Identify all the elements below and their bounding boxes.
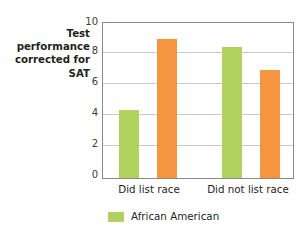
bar-did-not-list-race-series-2 bbox=[260, 70, 280, 179]
legend-item-african-american: African American bbox=[108, 211, 219, 222]
y-axis-tick-labels: 10 8 6 4 2 0 bbox=[70, 0, 98, 227]
x-axis-label-did-list-race: Did list race bbox=[106, 183, 192, 195]
bar-did-list-race-series-2 bbox=[157, 39, 177, 179]
gridline-8 bbox=[103, 52, 293, 53]
y-tick-label-6: 6 bbox=[72, 77, 98, 87]
plot-area bbox=[102, 22, 294, 179]
legend-label: African American bbox=[131, 211, 219, 222]
y-tick-label-8: 8 bbox=[72, 46, 98, 56]
legend-swatch-icon bbox=[108, 212, 124, 222]
y-tick-label-2: 2 bbox=[72, 139, 98, 149]
y-tick-label-4: 4 bbox=[72, 108, 98, 118]
x-axis-label-did-not-list-race: Did not list race bbox=[200, 183, 296, 195]
y-tick-label-0: 0 bbox=[72, 170, 98, 180]
bar-did-not-list-race-african-american bbox=[222, 47, 242, 178]
chart-legend: African American bbox=[108, 211, 233, 222]
bar-did-list-race-african-american bbox=[119, 110, 139, 178]
y-tick-label-10: 10 bbox=[72, 17, 98, 27]
